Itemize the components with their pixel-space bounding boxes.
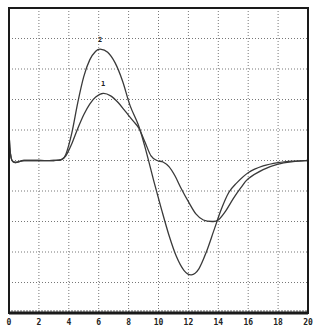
x-tick-label: 4 [66, 318, 71, 327]
x-tick-label: 0 [7, 318, 12, 327]
curve-label: 1 [101, 80, 105, 88]
x-tick-label: 2 [36, 318, 41, 327]
x-tick-label: 14 [213, 318, 223, 327]
x-tick-label: 18 [273, 318, 283, 327]
x-tick-label: 20 [303, 318, 313, 327]
x-tick-label: 12 [184, 318, 194, 327]
curve-label: 2 [98, 36, 102, 44]
x-tick-label: 10 [154, 318, 164, 327]
curve-labels: 21 [98, 36, 105, 88]
x-axis-tick-labels: 02468101214161820 [7, 318, 313, 327]
series-1-curve [9, 93, 308, 221]
line-chart: 02468101214161820 21 [0, 0, 318, 334]
x-tick-label: 6 [96, 318, 101, 327]
x-tick-label: 16 [243, 318, 253, 327]
x-tick-label: 8 [126, 318, 131, 327]
